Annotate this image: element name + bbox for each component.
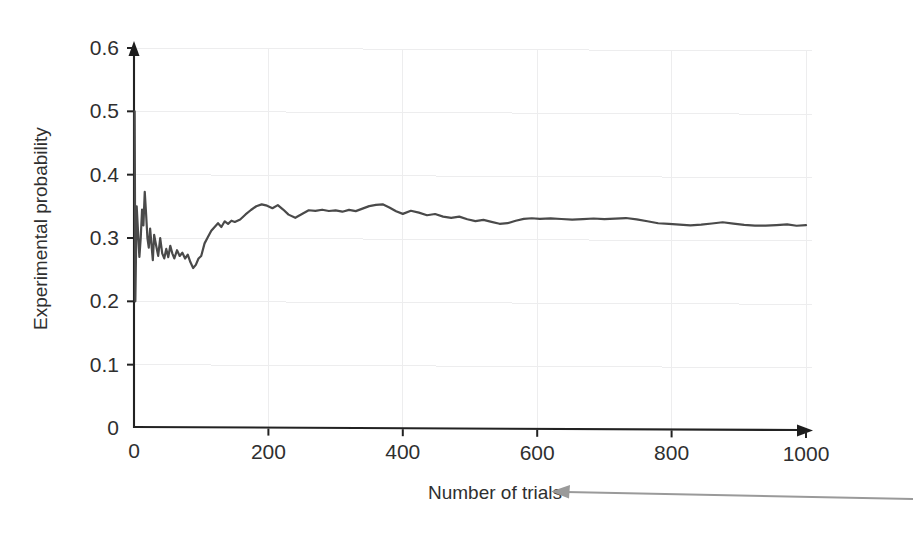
x-tick-label: 200 [251, 440, 286, 463]
x-tick-label: 600 [520, 441, 555, 464]
y-tick-label: 0.4 [90, 163, 120, 186]
grid-lines [134, 48, 812, 431]
grid-line-horizontal [134, 301, 812, 304]
grid-line-horizontal [134, 365, 812, 368]
x-axis-line [134, 427, 800, 430]
series-layer [135, 111, 806, 301]
grid-line-horizontal [134, 175, 812, 178]
series-line-experimental-probability [135, 111, 806, 301]
callout-arrow [551, 485, 913, 499]
x-tick-label: 800 [654, 441, 689, 464]
y-tick-label: 0.2 [90, 289, 119, 312]
y-axis-title: Experimental probability [30, 127, 51, 330]
y-tick-label: 0.6 [90, 36, 119, 59]
x-axis-ticks: 02004006008001000 [128, 429, 829, 465]
y-axis-ticks: 00.10.20.30.40.50.6 [90, 36, 134, 439]
grid-line-horizontal [134, 111, 812, 114]
y-tick-label: 0 [107, 416, 119, 439]
y-tick-label: 0.5 [90, 99, 119, 122]
x-tick-label: 0 [128, 439, 140, 462]
x-tick-label: 1000 [783, 442, 830, 465]
grid-line-horizontal [134, 238, 812, 241]
experimental-probability-line-chart: 00.10.20.30.40.50.6 02004006008001000 Ex… [0, 0, 913, 538]
callout-arrow-shaft [566, 492, 913, 499]
y-tick-label: 0.3 [90, 226, 119, 249]
y-tick-label: 0.1 [90, 353, 119, 376]
grid-line-horizontal [134, 48, 812, 51]
x-tick-label: 400 [385, 440, 420, 463]
chart-figure: 00.10.20.30.40.50.6 02004006008001000 Ex… [0, 0, 913, 538]
x-axis-title: Number of trials [428, 482, 562, 503]
